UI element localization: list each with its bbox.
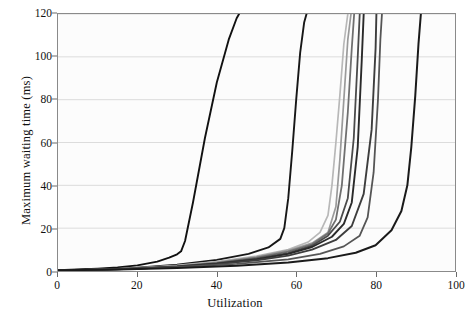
plot-area (57, 13, 456, 272)
y-tick-label: 0 (0, 266, 52, 278)
y-tick-label: 20 (0, 223, 52, 235)
x-tick-label: 100 (447, 279, 464, 291)
x-tick-label: 40 (211, 279, 223, 291)
y-tick-mark (52, 142, 57, 143)
y-tick-label: 40 (0, 180, 52, 192)
x-tick-label: 60 (291, 279, 303, 291)
x-tick-mark (376, 272, 377, 277)
chart-container: Maximum waiting time (ms) Utilization 02… (0, 0, 470, 320)
x-axis-title: Utilization (0, 296, 470, 311)
y-tick-label: 60 (0, 137, 52, 149)
x-tick-mark (217, 272, 218, 277)
y-tick-label: 80 (0, 93, 52, 105)
y-tick-label: 120 (0, 7, 52, 19)
y-tick-mark (52, 13, 57, 14)
y-tick-label: 100 (0, 50, 52, 62)
x-tick-mark (137, 272, 138, 277)
x-tick-mark (456, 272, 457, 277)
y-tick-mark (52, 185, 57, 186)
y-tick-mark (52, 99, 57, 100)
y-tick-mark (52, 228, 57, 229)
plot-lines-svg (58, 14, 455, 271)
y-axis-title: Maximum waiting time (ms) (19, 51, 34, 251)
x-tick-label: 0 (54, 279, 60, 291)
x-tick-label: 20 (131, 279, 143, 291)
y-tick-mark (52, 56, 57, 57)
x-tick-label: 80 (370, 279, 382, 291)
x-tick-mark (296, 272, 297, 277)
x-tick-mark (57, 272, 58, 277)
